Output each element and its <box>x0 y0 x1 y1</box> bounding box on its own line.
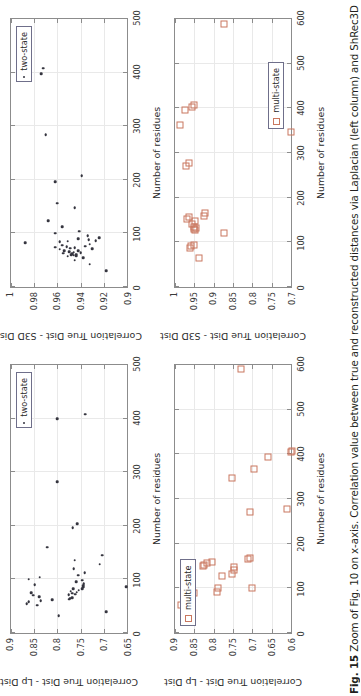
y-axis-tick <box>175 629 176 633</box>
data-point <box>176 122 183 129</box>
data-point <box>58 248 61 251</box>
data-point <box>63 249 66 252</box>
y-axis-tick <box>127 365 128 369</box>
chart-legend-label: multi-state <box>271 68 281 113</box>
x-axis-tick-label: 0 <box>296 631 306 636</box>
square-marker-icon <box>185 615 192 622</box>
data-point <box>58 241 61 244</box>
x-axis-tick-label: 100 <box>296 581 306 597</box>
y-axis-tick <box>175 283 176 287</box>
data-point <box>72 251 75 254</box>
data-point <box>65 246 68 249</box>
y-axis-tick <box>34 365 35 369</box>
data-point <box>76 522 79 525</box>
x-axis-tick-label: 500 <box>132 356 142 372</box>
x-axis-tick-label: 300 <box>132 118 142 134</box>
grid-line-horizontal <box>252 19 253 287</box>
data-point <box>71 596 74 599</box>
panel-top-right-plot: 01002003004005000.90.920.940.960.981two-… <box>4 4 164 344</box>
data-point <box>62 252 65 255</box>
data-point <box>87 239 90 242</box>
data-point <box>105 270 108 273</box>
data-point <box>237 366 244 373</box>
x-axis-tick <box>287 197 291 198</box>
data-point <box>82 256 85 259</box>
data-point <box>208 558 215 565</box>
y-axis-tick <box>194 19 195 23</box>
y-axis-tick <box>57 283 58 287</box>
data-point <box>77 574 80 577</box>
y-axis-tick-label: 0.85 <box>228 292 238 330</box>
x-axis-tick <box>123 578 127 579</box>
y-axis-tick <box>34 19 35 23</box>
data-point <box>77 589 80 592</box>
chart-panel-bottom-right: 01002003004005006000.70.750.80.850.90.95… <box>168 4 328 344</box>
data-point <box>30 592 33 595</box>
x-axis-tick-label: 100 <box>132 572 142 588</box>
y-axis-tick-label: 0.6 <box>287 638 297 676</box>
data-point <box>195 254 202 261</box>
x-axis-tick-label: 400 <box>132 64 142 80</box>
x-axis-tick <box>175 241 179 242</box>
x-axis-tick-label: 100 <box>132 226 142 242</box>
y-axis-tick <box>214 365 215 369</box>
data-point <box>75 581 78 584</box>
y-axis-tick <box>11 365 12 369</box>
data-point <box>229 474 236 481</box>
grid-line-horizontal <box>57 365 58 633</box>
data-point <box>51 598 54 601</box>
data-point <box>39 600 42 603</box>
y-axis-tick <box>127 19 128 23</box>
data-point <box>74 247 77 250</box>
data-point <box>125 586 128 589</box>
grid-line-vertical <box>11 471 127 472</box>
y-axis-tick <box>81 365 82 369</box>
y-axis-tick-label: 0.9 <box>5 638 15 676</box>
x-axis-tick <box>175 453 179 454</box>
data-point <box>54 181 57 184</box>
x-axis-tick-label: 200 <box>296 536 306 552</box>
data-point <box>72 567 75 570</box>
x-axis-tick <box>287 409 291 410</box>
data-point <box>284 505 291 512</box>
x-axis-tick <box>123 72 127 73</box>
y-axis-title: Correlation True Dist - S3D Dist <box>160 331 306 342</box>
y-axis-tick <box>272 19 273 23</box>
x-axis-tick <box>287 107 291 108</box>
y-axis-tick <box>57 19 58 23</box>
y-axis-tick <box>34 629 35 633</box>
data-point <box>98 563 101 566</box>
data-point <box>32 594 35 597</box>
data-point <box>27 601 30 604</box>
x-axis-tick <box>123 179 127 180</box>
x-axis-tick <box>287 63 291 64</box>
data-point <box>61 226 64 229</box>
data-point <box>75 253 78 256</box>
data-point <box>89 243 92 246</box>
y-axis-tick <box>194 629 195 633</box>
y-axis-tick-label: 0.7 <box>287 292 297 330</box>
x-axis-tick-label: 600 <box>296 10 306 26</box>
x-axis-tick <box>175 152 179 153</box>
grid-line-vertical <box>11 232 127 233</box>
data-point <box>86 235 89 238</box>
x-axis-tick <box>11 578 15 579</box>
y-axis-title: Correlation True Dist - S3D Dist <box>0 331 142 342</box>
figure-container: 01002003004005000.650.70.750.80.850.9two… <box>0 0 361 696</box>
y-axis-tick <box>252 283 253 287</box>
dot-marker-icon <box>23 422 26 425</box>
y-axis-tick <box>104 365 105 369</box>
grid-line-horizontal <box>57 19 58 287</box>
chart-legend: two-state <box>16 26 32 82</box>
y-axis-tick-label: 1 <box>169 292 179 330</box>
data-point <box>56 202 59 205</box>
data-point <box>74 206 77 209</box>
grid-line-vertical <box>11 125 127 126</box>
grid-line-horizontal <box>104 365 105 633</box>
chart-legend-label: two-state <box>19 32 29 71</box>
data-point <box>77 237 80 240</box>
x-axis-tick <box>11 525 15 526</box>
x-axis-tick-label: 100 <box>296 235 306 251</box>
y-axis-tick <box>11 19 12 23</box>
data-point <box>72 587 75 590</box>
